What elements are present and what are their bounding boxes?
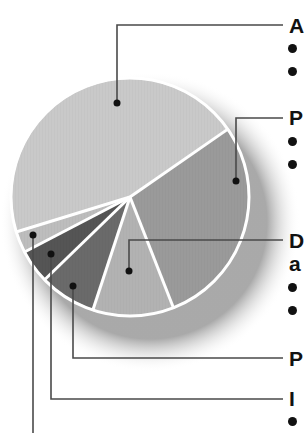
- label-p2: P: [289, 348, 303, 369]
- label-d-line1: D: [289, 230, 304, 251]
- dot-a: [114, 100, 121, 107]
- dot-i: [48, 251, 55, 258]
- label-a: A: [289, 15, 304, 36]
- dot-p1: [233, 178, 240, 185]
- bullet: [288, 160, 297, 169]
- pie-chart: [0, 0, 308, 433]
- pie-slices: [12, 79, 248, 315]
- dot-p2: [70, 283, 77, 290]
- dot-d: [126, 268, 133, 275]
- dot-small: [30, 232, 37, 239]
- bullet: [288, 137, 297, 146]
- bullet: [288, 306, 297, 315]
- bullet: [288, 283, 297, 292]
- bullet: [288, 67, 297, 76]
- bullet: [288, 44, 297, 53]
- label-p1: P: [289, 107, 303, 128]
- label-i: I: [289, 388, 295, 409]
- label-d-line2: a: [289, 253, 301, 274]
- bullet: [288, 417, 297, 426]
